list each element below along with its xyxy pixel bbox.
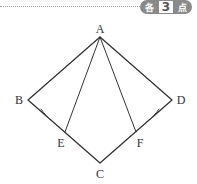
label-B: B — [15, 93, 23, 107]
segment-AE — [65, 37, 100, 132]
label-D: D — [177, 93, 186, 107]
label-C: C — [96, 167, 104, 181]
segment-AF — [100, 37, 136, 132]
quadrilateral-ABCD — [28, 37, 172, 163]
label-E: E — [57, 136, 64, 150]
label-A: A — [96, 22, 105, 36]
label-F: F — [137, 136, 144, 150]
quadrilateral-diagram: A B D C E F — [0, 0, 197, 184]
